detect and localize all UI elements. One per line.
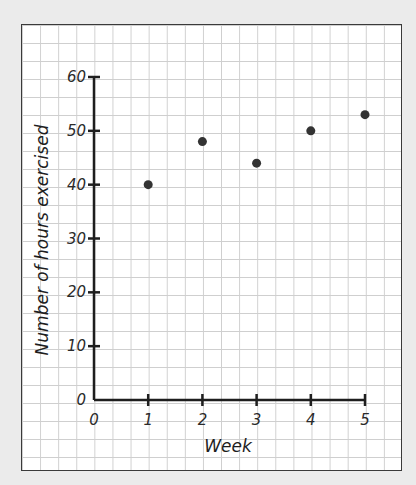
y-tick-label: 10 bbox=[67, 337, 86, 355]
x-tick-label: 0 bbox=[89, 411, 99, 429]
x-axis-title: Week bbox=[204, 436, 253, 456]
data-point bbox=[252, 159, 261, 168]
y-tick-label: 60 bbox=[67, 68, 86, 86]
y-tick-label: 0 bbox=[76, 391, 86, 409]
data-point bbox=[144, 180, 153, 189]
data-point bbox=[198, 137, 207, 146]
x-tick-label: 5 bbox=[360, 411, 370, 429]
data-point bbox=[361, 110, 370, 119]
y-axis-title: Number of hours exercised bbox=[32, 124, 52, 355]
y-tick-label: 30 bbox=[67, 230, 86, 248]
y-tick-label: 40 bbox=[67, 176, 86, 194]
y-tick-label: 50 bbox=[67, 122, 86, 140]
x-tick-label: 4 bbox=[306, 411, 316, 429]
axes bbox=[94, 77, 365, 400]
y-tick-label: 20 bbox=[67, 283, 86, 301]
x-tick-label: 1 bbox=[143, 411, 153, 429]
data-point bbox=[306, 126, 315, 135]
data-points bbox=[144, 110, 370, 189]
scatter-chart: 0102030405060 012345 Week Number of hour… bbox=[0, 0, 416, 485]
x-tick-label: 2 bbox=[198, 411, 208, 429]
x-tick-label: 3 bbox=[252, 411, 262, 429]
